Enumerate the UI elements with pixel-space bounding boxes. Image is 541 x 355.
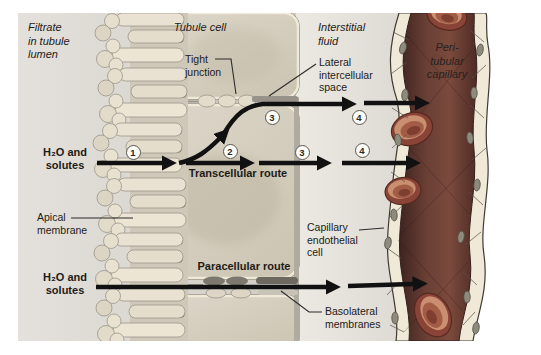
label-filtrate-lumen: Filtrate in tubule lumen [28,21,70,62]
label-apical-membrane: Apical membrane [37,211,87,236]
step-circle-transcellular-3: 3 [295,145,310,160]
step-circle-transcellular-1: 1 [126,145,141,160]
label-h2o-solutes-top: H₂O and solutes [36,146,94,171]
label-peritubular-capillary: Peri- tubular capillary [419,41,475,82]
figure-tubular-reabsorption: Filtrate in tubule lumen Tubule cell Int… [0,0,541,355]
step-circle-lateral-3: 3 [265,110,280,125]
step-circle-transcellular-2: 2 [223,144,238,159]
label-capillary-endothelial-cell: Capillary endothelial cell [307,221,358,259]
label-tight-junction: Tight junction [185,53,221,78]
label-transcellular-route: Transcellular route [181,167,295,180]
step-circle-transcellular-4: 4 [355,143,370,158]
label-basolateral-membranes: Basolateral membranes [325,305,380,330]
label-lateral-intercellular-space: Lateral intercellular space [319,56,373,94]
label-paracellular-route: Paracellular route [192,260,296,273]
step-circle-lateral-4: 4 [352,110,367,125]
label-interstitial-fluid: Interstitial fluid [318,21,365,48]
label-h2o-solutes-bottom: H₂O and solutes [36,271,94,296]
label-tubule-cell: Tubule cell [168,21,232,35]
paracellular-arrow-2 [348,284,413,286]
